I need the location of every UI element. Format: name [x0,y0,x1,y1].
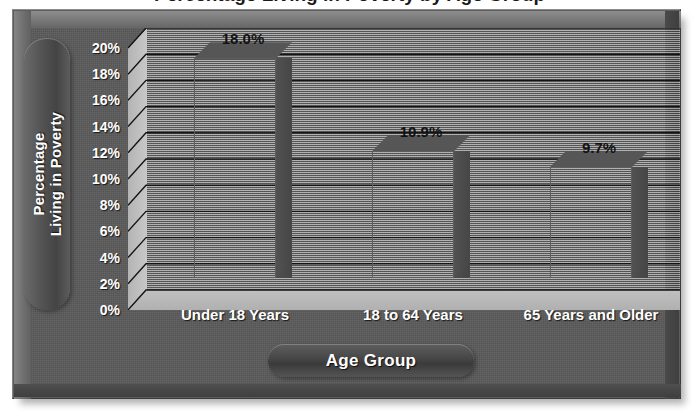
y-axis-tick-label: 14% [92,120,120,134]
bar-side-face-shade [454,151,470,278]
bar-side-face-shade [276,58,292,278]
y-axis-title-line1: Percentage [30,133,47,216]
chart-title-clip: Percentage Living in Poverty by Age Grou… [0,0,699,9]
x-axis-tick-label: 18 to 64 Years [324,306,502,323]
y-axis-tick-label: 16% [92,93,120,107]
bar-front-face [194,58,276,278]
bar [550,151,632,278]
plot-area: 18.0%10.9%9.7% [128,28,680,298]
y-axis-tick-label: 4% [100,251,120,265]
y-axis-title-line2: Living in Poverty [47,112,64,236]
y-axis-tick-label: 10% [92,172,120,186]
x-axis-tick-labels: Under 18 Years18 to 64 Years65 Years and… [128,306,680,330]
bar-value-label: 9.7% [536,139,662,156]
y-axis-tick-label: 20% [92,41,120,55]
x-axis-title: Age Group [268,344,474,377]
bar-side-face-shade [632,167,648,278]
bar-front-face [372,151,454,278]
y-axis-tick-label: 8% [100,198,120,212]
bar-side-face [276,58,292,278]
y-axis-title-plaque: Percentage Living in Poverty [24,38,70,310]
plot-left-wall [128,28,147,310]
frame-bevel-bottom [14,384,681,397]
y-axis-tick-label: 12% [92,146,120,160]
x-axis-tick-label: Under 18 Years [146,306,324,323]
bar-side-face [454,151,470,278]
bar [194,42,276,278]
x-axis-tick-label: 65 Years and Older [502,306,680,323]
y-axis-title: Percentage Living in Poverty [30,112,64,236]
bar-value-label: 10.9% [358,123,484,140]
bar-front-face [550,167,632,278]
y-axis-tick-label: 6% [100,224,120,238]
y-axis-tick-labels: 20%18%16%14%12%10%8%6%4%2%0% [74,20,124,310]
bar-value-label: 18.0% [180,30,306,47]
y-axis-tick-label: 0% [100,303,120,317]
bar [372,135,454,278]
x-axis-title-plaque: Age Group [268,344,474,377]
chart-container: Percentage Living in Poverty by Age Grou… [0,0,699,414]
y-axis-tick-label: 2% [100,277,120,291]
y-axis-tick-label: 18% [92,67,120,81]
chart-title: Percentage Living in Poverty by Age Grou… [0,0,699,6]
bar-side-face [632,167,648,278]
